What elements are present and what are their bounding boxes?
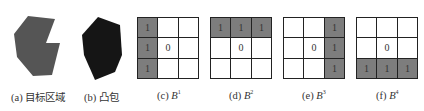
grid-cell: 1 [211,18,230,37]
mask-grid-b3: 1011 [283,17,345,79]
caption-a: (a) 目标区域 [11,89,65,104]
grid-cell [179,59,198,78]
caption-f: (f) B4 [376,89,399,101]
grid-cell [304,59,323,78]
grid-cell: 1 [138,59,157,78]
grid-cell: 1 [398,59,417,78]
grid-cell [179,18,198,37]
grid-cell: 1 [252,18,271,37]
grid-cell: 1 [231,18,250,37]
grid-cell [398,38,417,57]
grid-cell [377,18,396,37]
grid-cell [284,18,303,37]
grid-cell [398,18,417,37]
grid-cell: 0 [304,38,323,57]
grid-cell: 1 [357,59,376,78]
grid-cell [304,18,323,37]
grid-cell [211,59,230,78]
grid-cell [357,18,376,37]
mask-grid-b4: 0111 [356,17,418,79]
grid-cell: 1 [325,59,344,78]
grid-cell [284,38,303,57]
grid-cell [158,59,177,78]
grid-cell: 1 [138,38,157,57]
grid-cell [252,38,271,57]
grid-cell [211,38,230,57]
caption-e: (e) B3 [302,89,326,101]
mask-grid-b2: 1110 [210,17,272,79]
grid-cell: 1 [138,18,157,37]
grid-cell: 0 [377,38,396,57]
grid-cell: 0 [231,38,250,57]
grid-cell [231,59,250,78]
grid-cell [179,38,198,57]
grid-cell [357,38,376,57]
grid-cell [252,59,271,78]
grid-cell [284,59,303,78]
mask-grid-b1: 1101 [137,17,199,79]
grid-cell [158,18,177,37]
convex-hull-shape [82,17,122,80]
grid-cell: 1 [377,59,396,78]
grid-cell: 1 [325,18,344,37]
grid-cell: 0 [158,38,177,57]
grid-cell: 1 [325,38,344,57]
caption-b: (b) 凸包 [84,89,119,104]
caption-c: (c) B1 [157,89,181,101]
target-region-shape [14,16,60,76]
shapes-canvas [0,0,140,85]
caption-d: (d) B2 [229,89,253,101]
